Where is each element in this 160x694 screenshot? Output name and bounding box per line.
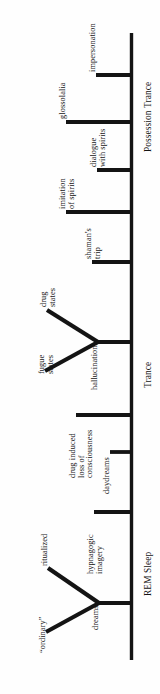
label-drug-induced-line3: consciousness [86,430,95,478]
label-daydreams: daydreams [103,457,112,494]
label-hypnagogic-imagery: hypnagogic imagery [87,534,104,574]
label-drug-states-line2: states [49,288,58,307]
label-dialogue-with-spirits: dialogue with spirits [90,129,107,167]
label-ritualized: ritualized [41,534,50,566]
label-fugue-states-line2: states [47,355,56,374]
label-drug-states: drug states [40,288,57,307]
diagram-lines [0,0,160,694]
label-impersonation: impersonation [89,23,98,72]
cladogram-diagram: impersonation glossolalia dialogue with … [0,0,160,694]
label-shamans-trip: shaman's trip [85,228,102,259]
label-shamans-line2: trip [94,228,103,259]
label-hypnagogic-line2: imagery [96,534,105,574]
axis-label-rem-sleep: REM Sleep [144,552,154,596]
label-drug-induced-loss: drug induced loss of consciousness [69,430,95,478]
label-glossolalia: glossolalia [59,82,68,119]
label-fugue-states: fugue states [38,355,55,374]
label-dreams: dreams [92,605,101,630]
label-imitation-line2: of spirits [68,178,77,209]
label-hallucinations: hallucinations [91,342,100,390]
label-dialogue-line2: with spirits [99,129,108,167]
label-ordinary: “ordinary” [39,617,48,653]
axis-label-trance: Trance [144,362,154,388]
label-imitation-of-spirits: imitation of spirits [59,178,76,209]
axis-label-possession-trance: Possession Trance [144,82,154,152]
branch-drug-states [47,310,98,342]
